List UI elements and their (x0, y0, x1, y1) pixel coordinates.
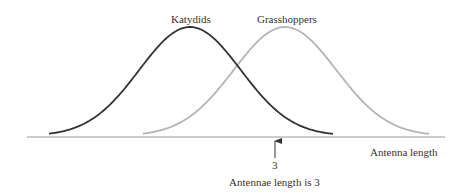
axis-label: Antenna length (370, 147, 438, 158)
katydids-label: Katydids (171, 14, 211, 25)
katydids-curve (49, 27, 333, 134)
tick-value: 3 (272, 160, 278, 171)
grasshoppers-label: Grasshoppers (257, 14, 317, 25)
diagram-canvas: Katydids Grasshoppers Antenna length 3 A… (0, 0, 465, 193)
annotation-label: Antennae length is 3 (229, 177, 320, 188)
distribution-plot (0, 0, 465, 193)
